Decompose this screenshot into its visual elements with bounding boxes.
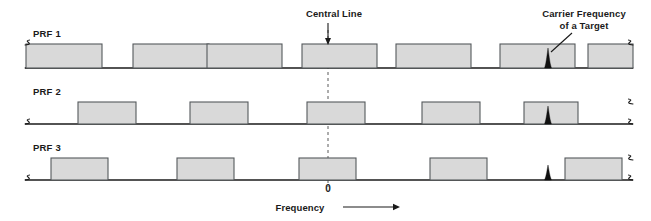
frequency-arrow-head xyxy=(393,204,400,210)
spectral-block xyxy=(422,102,480,124)
spectral-block xyxy=(133,44,209,68)
prf-spectrum-diagram: PRF 1PRF 2PRF 3Central LineCarrier Frequ… xyxy=(0,0,651,221)
block-break-right-row-2 xyxy=(629,99,634,104)
spectral-block xyxy=(302,44,377,68)
spectral-block xyxy=(26,44,102,68)
spectral-block xyxy=(207,44,282,68)
axis-break-right-row-3 xyxy=(629,175,634,180)
spectral-block xyxy=(396,44,471,68)
spectral-block xyxy=(588,44,633,68)
row-label-prf-2: PRF 2 xyxy=(33,86,61,97)
zero-tick-label: 0 xyxy=(325,183,331,194)
spectral-block xyxy=(307,102,365,124)
spectral-block xyxy=(430,158,487,180)
block-break-right-row-3 xyxy=(629,155,634,160)
spectral-block xyxy=(177,158,234,180)
axis-break-left-row-3 xyxy=(25,175,30,180)
prf-spectrum-svg: PRF 1PRF 2PRF 3Central LineCarrier Frequ… xyxy=(0,0,651,221)
carrier-frequency-label-line1: Carrier Frequency xyxy=(542,8,626,19)
spectral-block xyxy=(565,158,622,180)
central-line-label: Central Line xyxy=(306,8,362,19)
spectral-block xyxy=(51,158,108,180)
spectral-block xyxy=(524,102,578,124)
spectral-block xyxy=(190,102,248,124)
frequency-axis-title: Frequency xyxy=(276,202,326,213)
axis-break-right-row-2 xyxy=(629,119,634,124)
axis-break-left-row-2 xyxy=(25,119,30,124)
carrier-spike-row-3 xyxy=(545,165,552,180)
spectral-block xyxy=(78,102,136,124)
carrier-frequency-label-line2: of a Target xyxy=(560,20,610,31)
row-label-prf-3: PRF 3 xyxy=(33,142,61,153)
spectral-block xyxy=(299,158,356,180)
row-label-prf-1: PRF 1 xyxy=(33,28,61,39)
spectral-block xyxy=(500,44,575,68)
